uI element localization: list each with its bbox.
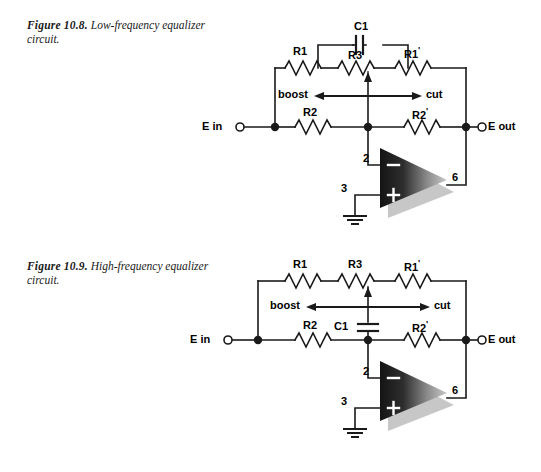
label-pin-3: 3 (341, 182, 347, 194)
label-c1: C1 (354, 20, 368, 32)
resistor-r2 (295, 333, 331, 347)
label-r1: R1 (293, 258, 307, 270)
terminal-eout-circle (478, 123, 486, 131)
label-cut: cut (434, 299, 451, 311)
label-pin-2: 2 (363, 365, 369, 377)
label-boost: boost (270, 299, 300, 311)
cut-arrowhead (420, 303, 430, 311)
label-eout: E out (488, 120, 516, 132)
wire-node-to-inv (368, 340, 380, 378)
resistor-r1-prime (395, 61, 431, 75)
equalizer-circuit-diagrams (0, 0, 541, 472)
label-r2: R2 (303, 319, 317, 331)
label-r3: R3 (348, 258, 362, 270)
boost-arrowhead (314, 92, 324, 100)
label-r2-prime: R2' (412, 319, 428, 334)
cut-arrowhead (412, 92, 422, 100)
label-pin-3: 3 (341, 395, 347, 407)
label-eout: E out (488, 333, 516, 345)
wire-noninv-to-gnd (355, 195, 380, 216)
wiper-arrowhead (364, 72, 372, 82)
label-ein: E in (202, 120, 222, 132)
circuit-10-8 (236, 36, 486, 224)
label-r1: R1 (293, 45, 307, 57)
label-r2-prime: R2' (412, 106, 428, 121)
label-r1-prime: R1' (404, 45, 420, 60)
wire-node-to-inv (368, 127, 380, 165)
boost-arrowhead (306, 303, 316, 311)
label-pin-6: 6 (452, 171, 458, 183)
wiper-arrowhead (364, 287, 372, 297)
resistor-r1 (285, 274, 321, 288)
junction-dot-out (462, 336, 470, 344)
junction-dot-mid (364, 336, 372, 344)
resistor-r3 (338, 274, 374, 288)
label-r1-prime: R1' (404, 258, 420, 273)
terminal-ein-circle (236, 123, 244, 131)
resistor-r3 (338, 61, 374, 75)
junction-dot-out (462, 123, 470, 131)
junction-dot-in (254, 336, 262, 344)
terminal-ein-circle (224, 336, 232, 344)
resistor-r2-prime (404, 333, 440, 347)
junction-dot-mid (364, 123, 372, 131)
resistor-r1 (285, 61, 321, 75)
resistor-r1-prime (395, 274, 431, 288)
label-boost: boost (278, 88, 308, 100)
label-c1: C1 (334, 320, 348, 332)
junction-dot-in (271, 123, 279, 131)
label-r2: R2 (303, 106, 317, 118)
label-pin-2: 2 (363, 152, 369, 164)
label-cut: cut (426, 88, 443, 100)
resistor-r2 (295, 120, 331, 134)
figure-page: Figure 10.8. Low-frequency equalizer cir… (0, 0, 541, 472)
label-pin-6: 6 (452, 384, 458, 396)
wire-noninv-to-gnd (355, 408, 380, 429)
label-ein: E in (190, 333, 210, 345)
terminal-eout-circle (478, 336, 486, 344)
label-r3: R3 (348, 49, 362, 61)
resistor-r2-prime (404, 120, 440, 134)
